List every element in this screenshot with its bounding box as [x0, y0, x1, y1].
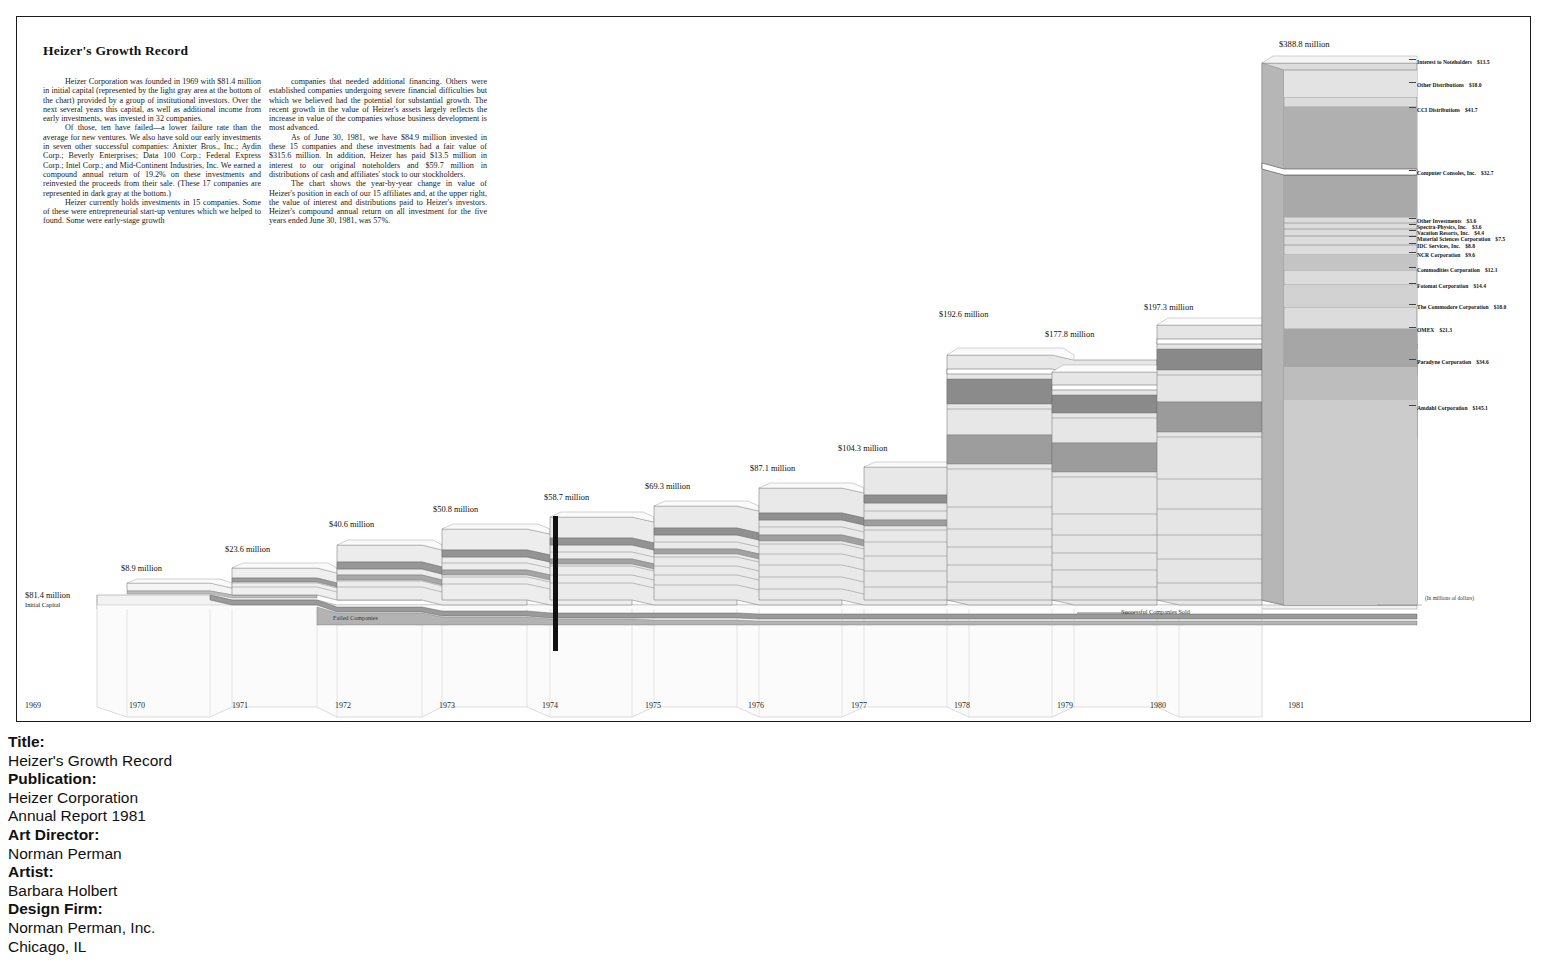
legend-label: Fotomat Corporation: [1417, 283, 1468, 289]
value-label-1980: $197.3 million: [1144, 303, 1193, 312]
legend-tick: [1409, 304, 1416, 305]
legend-label: The Commodore Corporation: [1417, 304, 1489, 310]
credits-block: Title: Heizer's Growth Record Publicatio…: [8, 733, 428, 956]
credit-publication-key: Publication:: [8, 770, 428, 789]
value-label-1978: $192.6 million: [939, 310, 988, 319]
legend-value: $18.0: [1494, 304, 1507, 310]
legend-tick: [1409, 236, 1416, 237]
legend-item-idc-services: IDC Services, Inc.$8.8: [1417, 243, 1475, 249]
year-column-1981: [1262, 56, 1417, 605]
axis-year-1976: 1976: [748, 701, 764, 710]
value-label-1976: $87.1 million: [750, 464, 795, 473]
value-label-1979: $177.8 million: [1045, 330, 1094, 339]
value-label-1972: $40.6 million: [329, 520, 374, 529]
value-label-1970: $8.9 million: [121, 564, 162, 573]
legend-tick: [1409, 224, 1416, 225]
legend-tick: [1409, 218, 1416, 219]
annotation-successful-companies-sold: Successful Companies Sold: [1121, 608, 1190, 615]
legend-item-omex: OMEX$21.3: [1417, 327, 1452, 333]
credit-art-director-value: Norman Perman: [8, 845, 428, 864]
legend-label: Amdahl Corporation: [1417, 405, 1468, 411]
legend-value: $34.6: [1476, 359, 1489, 365]
legend-label: NCR Corporation: [1417, 252, 1460, 258]
credit-artist-value: Barbara Holbert: [8, 882, 428, 901]
axis-year-1981: 1981: [1288, 701, 1304, 710]
legend-tick: [1409, 359, 1416, 360]
legend-item-cci-distributions: CCI Distributions$41.7: [1417, 107, 1478, 113]
chart-panel: Heizer's Growth Record Heizer Corporatio…: [16, 16, 1531, 722]
credit-title-key: Title:: [8, 733, 428, 752]
legend-item-fotomat-corporation: Fotomat Corporation$14.4: [1417, 283, 1486, 289]
legend-label: Paradyne Corporation: [1417, 359, 1471, 365]
legend-value: $13.5: [1477, 59, 1490, 65]
axis-year-1974: 1974: [542, 701, 558, 710]
legend-label: OMEX: [1417, 327, 1434, 333]
legend-item-amdahl-corporation: Amdahl Corporation$145.1: [1417, 405, 1488, 411]
legend-value: $18.0: [1469, 82, 1482, 88]
initial-capital-band: [97, 595, 1417, 717]
axis-year-1971: 1971: [232, 701, 248, 710]
legend-tick: [1409, 243, 1416, 244]
legend-label: Commodities Corporation: [1417, 267, 1480, 273]
legend-label: Other Distributions: [1417, 82, 1464, 88]
value-label-1971: $23.6 million: [225, 545, 270, 554]
legend-item-other-distributions: Other Distributions$18.0: [1417, 82, 1482, 88]
legend-value: $8.8: [1465, 243, 1475, 249]
value-label-1975: $69.3 million: [645, 482, 690, 491]
credit-art-director-key: Art Director:: [8, 826, 428, 845]
legend-tick: [1409, 267, 1416, 268]
axis-year-1975: 1975: [645, 701, 661, 710]
axis-year-1969: 1969: [25, 701, 41, 710]
legend-tick: [1409, 230, 1416, 231]
legend-value: $9.6: [1465, 252, 1475, 258]
legend-tick: [1409, 107, 1416, 108]
legend-value: $41.7: [1465, 107, 1478, 113]
axis-year-1978: 1978: [954, 701, 970, 710]
legend-value: $21.3: [1439, 327, 1452, 333]
legend-label: IDC Services, Inc.: [1417, 243, 1460, 249]
legend-item-commodities-corporation: Commodities Corporation$12.1: [1417, 267, 1498, 273]
legend-label: Material Sciences Corporation: [1417, 236, 1490, 242]
legend-item-material-sciences: Material Sciences Corporation$7.5: [1417, 236, 1505, 242]
credit-design-firm-value-1: Norman Perman, Inc.: [8, 919, 428, 938]
legend-tick: [1409, 59, 1416, 60]
legend-value: $12.1: [1485, 267, 1498, 273]
credit-publication-value-1: Heizer Corporation: [8, 789, 428, 808]
value-sublabel-1969: Initial Capital: [25, 601, 60, 608]
annotation-failed-companies: Failed Companies: [333, 614, 378, 621]
legend-label: Computer Consoles, Inc.: [1417, 170, 1476, 176]
axis-year-1970: 1970: [129, 701, 145, 710]
chart-legend: Interest to Noteholders$13.5 Other Distr…: [1417, 39, 1531, 619]
value-label-1969: $81.4 million: [25, 591, 70, 600]
axis-year-1977: 1977: [851, 701, 867, 710]
legend-label: CCI Distributions: [1417, 107, 1460, 113]
page-root: Heizer's Growth Record Heizer Corporatio…: [0, 0, 1547, 977]
credit-artist-key: Artist:: [8, 863, 428, 882]
legend-value: $14.4: [1473, 283, 1486, 289]
legend-tick: [1409, 170, 1416, 171]
axis-year-1972: 1972: [335, 701, 351, 710]
credit-design-firm-value-2: Chicago, IL: [8, 938, 428, 957]
credit-design-firm-key: Design Firm:: [8, 900, 428, 919]
legend-tick: [1409, 405, 1416, 406]
credit-title-value: Heizer's Growth Record: [8, 752, 428, 771]
legend-value: $7.5: [1495, 236, 1505, 242]
legend-tick: [1409, 82, 1416, 83]
legend-item-paradyne-corporation: Paradyne Corporation$34.6: [1417, 359, 1489, 365]
legend-item-computer-consoles: Computer Consoles, Inc.$32.7: [1417, 170, 1494, 176]
legend-value: $145.1: [1473, 405, 1488, 411]
legend-tick: [1409, 283, 1416, 284]
axis-year-1979: 1979: [1057, 701, 1073, 710]
legend-item-ncr-corporation: NCR Corporation$9.6: [1417, 252, 1475, 258]
legend-item-commodore-corporation: The Commodore Corporation$18.0: [1417, 304, 1506, 310]
credit-publication-value-2: Annual Report 1981: [8, 807, 428, 826]
legend-tick: [1409, 327, 1416, 328]
chart-svg: [17, 17, 1530, 721]
axis-year-1973: 1973: [439, 701, 455, 710]
value-label-1981: $388.8 million: [1279, 39, 1330, 49]
growth-area-chart: [17, 17, 1530, 721]
value-label-1973: $50.8 million: [433, 505, 478, 514]
legend-value: $32.7: [1481, 170, 1494, 176]
value-label-1974: $58.7 million: [544, 493, 589, 502]
value-label-1977: $104.3 million: [838, 444, 887, 453]
